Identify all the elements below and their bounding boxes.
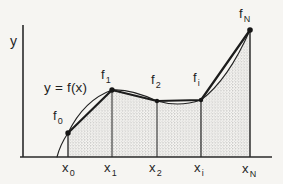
axis-label-xi: xi bbox=[194, 161, 204, 174]
y-axis-label: y bbox=[10, 34, 17, 48]
axis-label-x2: x2 bbox=[149, 161, 162, 174]
point-label-fN: fN bbox=[239, 7, 251, 20]
diagram-canvas bbox=[0, 0, 283, 184]
data-point-f0 bbox=[65, 130, 70, 135]
curve-equation-label: y = f(x) bbox=[44, 81, 87, 95]
axis-label-x0: x0 bbox=[62, 161, 75, 174]
axis-label-x1: x1 bbox=[104, 161, 117, 174]
data-point-fi bbox=[199, 98, 203, 102]
figure-trapezoidal-integration: y y = f(x) f0 f1 f2 fi fN x0 x1 x2 xi xN bbox=[0, 0, 283, 184]
data-point-f1 bbox=[109, 87, 114, 92]
data-point-f2 bbox=[155, 99, 159, 103]
point-label-f0: f0 bbox=[53, 109, 63, 122]
data-point-fN bbox=[247, 27, 253, 33]
point-label-fi: fi bbox=[193, 71, 200, 84]
axis-label-xN: xN bbox=[242, 162, 256, 175]
point-label-f2: f2 bbox=[151, 73, 161, 86]
point-label-f1: f1 bbox=[101, 68, 111, 81]
shaded-region bbox=[68, 30, 250, 157]
